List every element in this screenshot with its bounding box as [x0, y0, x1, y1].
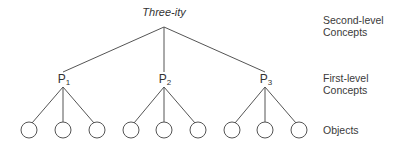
object-node — [291, 122, 307, 138]
concept-node-p2: P2 — [159, 72, 171, 87]
edge-root-p3 — [164, 27, 265, 72]
level-label-first: First-level Concepts — [323, 72, 369, 96]
object-node — [21, 122, 37, 138]
object-node — [190, 122, 206, 138]
object-node — [257, 122, 273, 138]
object-node — [156, 122, 172, 138]
concept-node-p1: P1 — [58, 72, 70, 87]
object-node — [123, 122, 139, 138]
level-label-objects: Objects — [323, 124, 359, 136]
object-node — [89, 122, 105, 138]
root-node-label: Three-ity — [142, 6, 185, 18]
object-node — [224, 122, 240, 138]
edge-root-p1 — [63, 27, 164, 72]
concept-node-p3: P3 — [260, 72, 272, 87]
object-node — [55, 122, 71, 138]
level-label-second: Second-level Concepts — [323, 14, 384, 38]
